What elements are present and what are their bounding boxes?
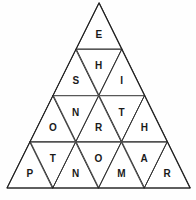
letter-p-r4-p1: P — [26, 168, 33, 179]
letter-o-r3-p1: O — [49, 122, 57, 133]
letter-h-r3-p5: H — [141, 122, 148, 133]
letter-t-r4-p2: T — [50, 153, 56, 164]
cell-r1-p1-e-face — [76, 3, 122, 49]
letter-t-r3-p4: T — [118, 107, 124, 118]
letter-o-r4-p4: O — [95, 153, 103, 164]
letter-h-r2-p2: H — [95, 60, 102, 71]
letter-s-r2-p1: S — [72, 75, 79, 86]
letter-m-r4-p5: M — [117, 168, 126, 179]
letter-e-r1-p1: E — [95, 29, 102, 40]
letter-a-r4-p6: A — [141, 153, 148, 164]
letter-r-r3-p3: R — [95, 122, 103, 133]
letter-i-r2-p3: I — [120, 75, 123, 86]
letter-n-r4-p3: N — [72, 168, 79, 179]
letter-r-r4-p7: R — [163, 168, 171, 179]
triangle-grid: ESHIONRTHPTNOMAR — [0, 0, 196, 200]
letter-n-r3-p2: N — [72, 107, 79, 118]
letter-triangle-puzzle: ESHIONRTHPTNOMAR — [0, 0, 196, 200]
